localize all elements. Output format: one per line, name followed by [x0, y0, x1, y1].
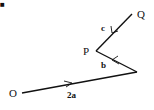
point-label-p: P	[83, 45, 89, 57]
point-label-q: Q	[137, 8, 145, 20]
vector-diagram: ■ O P Q 2a b c	[0, 0, 154, 110]
vector-label-2a: 2a	[67, 90, 77, 100]
vector-label-b: b	[101, 60, 106, 70]
corner-fragment: ■	[0, 0, 5, 9]
vector-label-c: c	[101, 23, 105, 33]
point-label-o: O	[9, 87, 17, 99]
vector-2a-line	[22, 72, 137, 93]
